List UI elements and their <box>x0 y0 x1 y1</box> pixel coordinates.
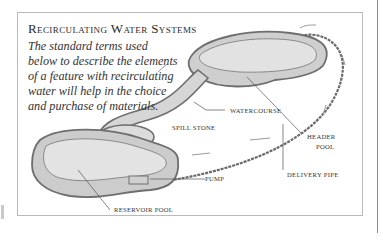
label-reservoir-pool: Reservoir Pool <box>114 206 173 213</box>
reservoir-pool-shape <box>32 130 178 197</box>
pump-shape <box>129 176 148 184</box>
label-spill-stone: Spill Stone <box>172 124 215 131</box>
label-watercourse: Watercourse <box>230 107 281 114</box>
intro-text: The standard terms used below to describ… <box>28 39 178 114</box>
header-pool-shape <box>189 32 327 87</box>
label-delivery-pipe: Delivery Pipe <box>287 171 338 178</box>
diagram-title: Recirculating Water Systems <box>28 21 197 37</box>
label-header-pool-line2: Pool <box>316 143 334 150</box>
label-header-pool-line1: Header <box>307 133 336 140</box>
label-pump: Pump <box>205 175 224 182</box>
